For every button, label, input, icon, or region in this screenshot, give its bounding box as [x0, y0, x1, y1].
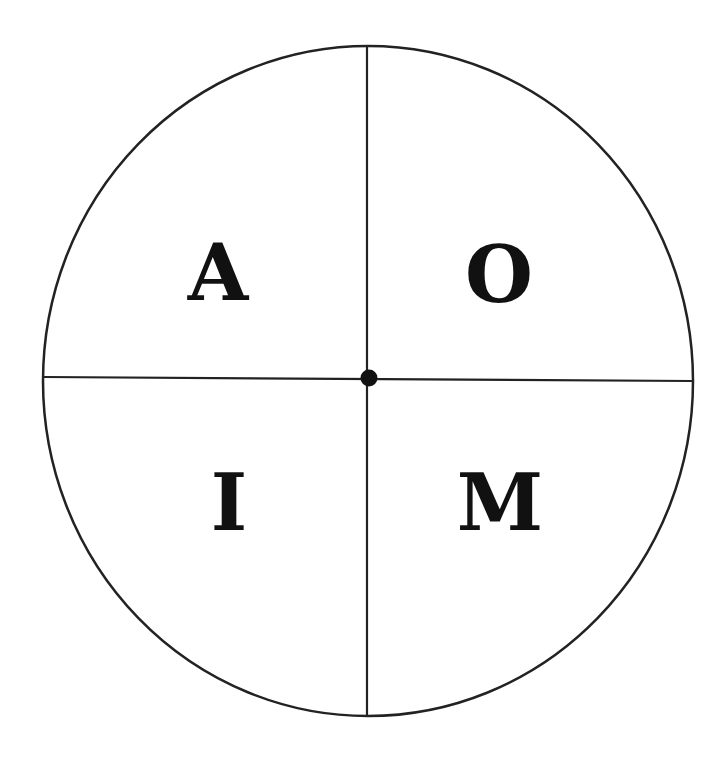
label-bottom-left: I — [211, 457, 248, 548]
center-dot — [361, 370, 378, 387]
label-top-right: O — [465, 229, 533, 320]
label-top-left: A — [187, 227, 250, 318]
label-bottom-right: M — [457, 457, 543, 548]
quadrant-diagram: A O I M — [0, 0, 711, 784]
